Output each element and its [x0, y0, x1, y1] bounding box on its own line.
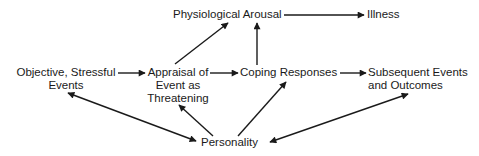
appraisal-line3: Threatening [144, 92, 212, 105]
node-physiological-arousal: Physiological Arousal [173, 8, 282, 21]
node-coping-responses: Coping Responses [240, 66, 337, 79]
node-objective-stressful-events: Objective, Stressful Events [16, 66, 116, 92]
arrow-personality-to-appraisal [179, 105, 213, 136]
subsequent-line2: and Outcomes [368, 79, 468, 92]
arrow-personality-to-coping [238, 82, 286, 136]
objective-events-line2: Events [16, 79, 116, 92]
physiological-arousal-label: Physiological Arousal [173, 8, 282, 20]
coping-responses-label: Coping Responses [240, 66, 337, 78]
objective-events-line1: Objective, Stressful [16, 66, 116, 79]
node-illness: Illness [367, 8, 400, 21]
node-personality: Personality [201, 136, 258, 149]
arrow-appraisal-to-arousal [175, 23, 228, 64]
node-subsequent-events: Subsequent Events and Outcomes [368, 66, 468, 92]
appraisal-line1: Appraisal of [144, 66, 212, 79]
node-appraisal: Appraisal of Event as Threatening [144, 66, 212, 105]
arrow-personality-subsequent-bidirectional [270, 94, 408, 142]
subsequent-line1: Subsequent Events [368, 66, 468, 79]
personality-label: Personality [201, 136, 258, 148]
illness-label: Illness [367, 8, 400, 20]
appraisal-line2: Event as [144, 79, 212, 92]
